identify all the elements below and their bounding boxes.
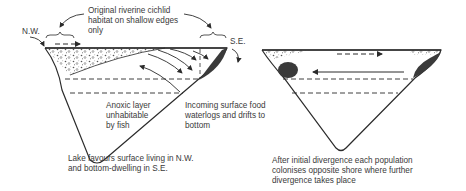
nw-pointer-arrow: [30, 37, 44, 46]
right-lake: [262, 50, 441, 151]
se-population-blob: [413, 52, 441, 78]
sinking-food-arrow-4: [193, 51, 208, 59]
anoxic-note: Anoxic layer unhabitable by fish: [106, 101, 151, 131]
left-caption: Lake favours surface living in N.W. and …: [68, 154, 194, 174]
se-dark-sediment: [199, 48, 227, 80]
left-lake: [30, 14, 238, 163]
nw-gravel-shallow: [45, 48, 165, 75]
se-gravel-right: [410, 50, 440, 55]
se-brace: [200, 32, 226, 38]
sinking-food-arrow-1: [148, 54, 182, 73]
habitat-arrow-nw: [60, 14, 84, 27]
sinking-food-arrow-3: [170, 49, 196, 60]
nw-brace: [46, 32, 74, 38]
habitat-arrow-se: [184, 14, 211, 28]
habitat-note: Original riverine cichlid habitat on sha…: [88, 6, 178, 36]
nw-population-blob: [278, 62, 298, 78]
right-caption: After initial divergence each population…: [272, 156, 413, 186]
se-pointer-arrow: [232, 49, 238, 62]
nw-gravel-right: [262, 50, 310, 59]
label-se: S.E.: [230, 37, 245, 47]
label-nw: N.W.: [22, 27, 40, 37]
food-note: Incoming surface food waterlogs and drif…: [185, 101, 266, 131]
